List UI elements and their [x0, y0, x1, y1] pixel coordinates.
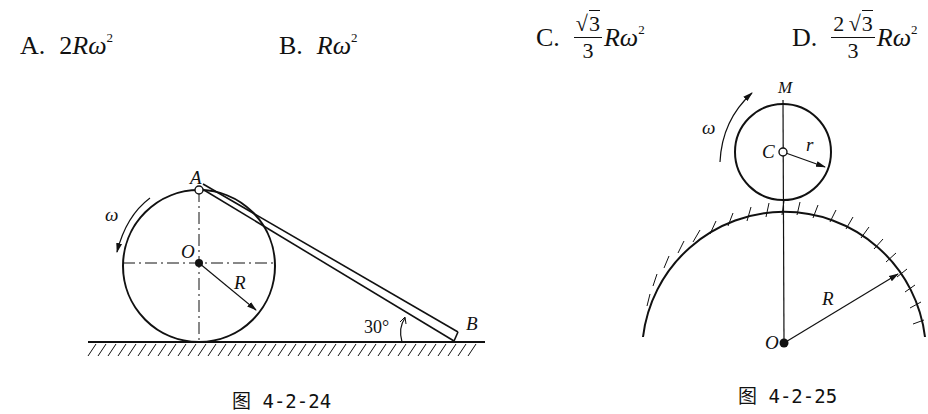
- label-r: R: [233, 272, 246, 293]
- label-o-right: O: [765, 332, 779, 353]
- label-omega: ω: [105, 204, 118, 225]
- ground-hatching: [88, 344, 476, 356]
- label-c: C: [762, 141, 775, 162]
- figures-canvas: A O R ω 30° B: [0, 0, 928, 414]
- arc-hatching: [647, 201, 924, 324]
- label-m: M: [777, 78, 793, 97]
- label-omega-right: ω: [702, 117, 715, 138]
- pin-c-icon: [779, 148, 787, 156]
- small-r-arrow: [783, 152, 825, 167]
- big-r-arrow: [784, 274, 898, 343]
- figure-4-2-25: [643, 93, 925, 348]
- line-m-o: [783, 100, 784, 343]
- figure-4-2-24: [88, 184, 485, 356]
- caption-4-2-25: 图 4-2-25: [738, 381, 837, 408]
- radius-arrow: [199, 263, 256, 310]
- label-r-big: R: [821, 288, 834, 309]
- label-b: B: [466, 313, 478, 334]
- omega-arrow-left: [117, 198, 150, 252]
- center-o2-icon: [780, 339, 789, 348]
- label-angle: 30°: [364, 317, 389, 337]
- caption-4-2-24: 图 4-2-24: [232, 386, 331, 413]
- label-o: O: [181, 241, 195, 262]
- label-a: A: [188, 167, 202, 188]
- center-o-icon: [195, 259, 203, 267]
- angle-arc: [401, 318, 405, 342]
- label-r-small: r: [806, 134, 814, 155]
